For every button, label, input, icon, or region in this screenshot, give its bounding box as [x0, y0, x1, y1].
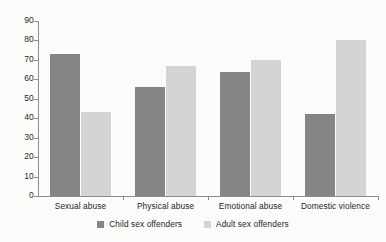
- bar-child-sex-offenders: [305, 114, 335, 196]
- y-axis-tick-mark: [34, 177, 38, 178]
- y-axis-tick-label: 30: [24, 132, 34, 142]
- x-axis-label-sexual-abuse: Sexual abuse: [38, 201, 123, 211]
- y-axis-tick-label: 60: [24, 73, 34, 83]
- y-axis-tick-label: 70: [24, 54, 34, 64]
- y-axis-tick-mark: [34, 118, 38, 119]
- bar-chart: 0102030405060708090 Sexual abusePhysical…: [0, 0, 386, 242]
- x-axis-label-domestic-violence: Domestic violence: [293, 201, 378, 211]
- legend-swatch-icon: [97, 221, 104, 228]
- y-axis-tick-mark: [34, 196, 38, 197]
- x-axis-separator-tick: [378, 196, 379, 200]
- y-axis-tick-label: 0: [29, 190, 34, 200]
- y-axis-tick-label: 90: [24, 15, 34, 25]
- y-axis-tick-mark: [34, 99, 38, 100]
- y-axis-tick-mark: [34, 21, 38, 22]
- bar-adult-sex-offenders: [251, 60, 281, 196]
- y-axis-tick-mark: [34, 157, 38, 158]
- y-axis-tick-mark: [34, 79, 38, 80]
- y-axis-tick-label: 50: [24, 93, 34, 103]
- plot-area: [38, 21, 378, 196]
- bar-adult-sex-offenders: [81, 112, 111, 196]
- bar-adult-sex-offenders: [336, 40, 366, 196]
- y-axis-tick-mark: [34, 60, 38, 61]
- y-axis-tick-label: 20: [24, 151, 34, 161]
- y-axis-tick-mark: [34, 40, 38, 41]
- bar-child-sex-offenders: [50, 54, 80, 196]
- legend-item-child-sex-offenders[interactable]: Child sex offenders: [97, 219, 182, 229]
- y-axis-tick-label: 80: [24, 34, 34, 44]
- bar-group: [208, 21, 293, 196]
- legend-swatch-icon: [204, 221, 211, 228]
- x-axis-label-physical-abuse: Physical abuse: [123, 201, 208, 211]
- y-axis-tick-mark: [34, 138, 38, 139]
- bar-group: [123, 21, 208, 196]
- y-axis-tick-label: 40: [24, 112, 34, 122]
- bar-child-sex-offenders: [135, 87, 165, 196]
- x-axis-separator-tick: [123, 196, 124, 200]
- bar-group: [38, 21, 123, 196]
- bar-group: [293, 21, 378, 196]
- legend-label: Child sex offenders: [109, 219, 182, 229]
- bar-adult-sex-offenders: [166, 66, 196, 196]
- bar-child-sex-offenders: [220, 72, 250, 196]
- x-axis-label-emotional-abuse: Emotional abuse: [208, 201, 293, 211]
- x-axis-separator-tick: [208, 196, 209, 200]
- y-axis-tick-label: 10: [24, 171, 34, 181]
- chart-legend: Child sex offendersAdult sex offenders: [0, 219, 386, 229]
- legend-item-adult-sex-offenders[interactable]: Adult sex offenders: [204, 219, 289, 229]
- legend-label: Adult sex offenders: [216, 219, 289, 229]
- x-axis-separator-tick: [293, 196, 294, 200]
